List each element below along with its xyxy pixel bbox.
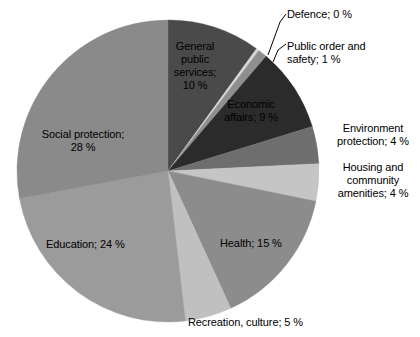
slice-label-defence: Defence; 0 % — [287, 8, 407, 21]
slice-label-environment-protection: Environment protection; 4 % — [327, 122, 419, 148]
leader-line-group — [268, 14, 286, 62]
slice-label-general-public-services: General public services; 10 % — [152, 40, 238, 92]
slice-label-recreation-culture: Recreation, culture; 5 % — [188, 316, 328, 329]
slice-label-social-protection: Social protection; 28 % — [28, 128, 138, 154]
leader-line-defence — [268, 14, 286, 55]
slice-label-health: Health; 15 % — [220, 237, 306, 250]
slice-label-economic-affairs: Economic affairs; 9 % — [213, 98, 289, 124]
slice-label-public-order-and-safety: Public order and safety; 1 % — [287, 40, 413, 66]
leader-line-public-order-and-safety — [273, 44, 286, 62]
slice-label-housing-and-community-amenities: Housing and community amenities; 4 % — [327, 161, 419, 200]
slice-label-education: Education; 24 % — [46, 238, 164, 251]
pie-slice-social-protection — [17, 20, 168, 199]
pie-chart: General public services; 10 % Economic a… — [0, 0, 420, 337]
